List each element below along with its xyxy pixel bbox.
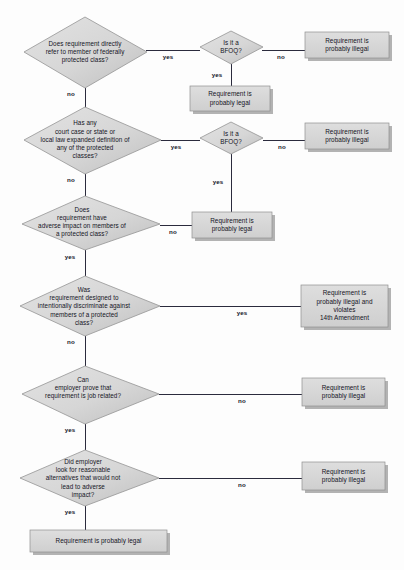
flowchart-canvas: Does requirement directly refer to membe… bbox=[0, 0, 404, 570]
flowchart-shapes bbox=[0, 0, 404, 570]
